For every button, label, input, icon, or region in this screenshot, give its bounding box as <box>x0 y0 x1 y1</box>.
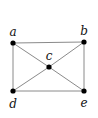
node-label-e: e <box>80 96 87 110</box>
node-e <box>81 88 86 93</box>
node-d <box>10 88 15 93</box>
node-label-b: b <box>80 24 88 38</box>
edge-c-d <box>13 67 49 91</box>
graph-diagram: abcde <box>0 0 98 118</box>
node-label-d: d <box>9 97 17 111</box>
node-b <box>81 39 86 44</box>
node-label-c: c <box>46 49 53 63</box>
node-c <box>46 64 51 69</box>
node-label-a: a <box>9 25 16 39</box>
edge-c-e <box>49 67 84 91</box>
edge-b-c <box>49 42 84 67</box>
edge-a-b <box>13 42 84 43</box>
node-a <box>10 40 15 45</box>
edge-a-c <box>13 43 49 67</box>
